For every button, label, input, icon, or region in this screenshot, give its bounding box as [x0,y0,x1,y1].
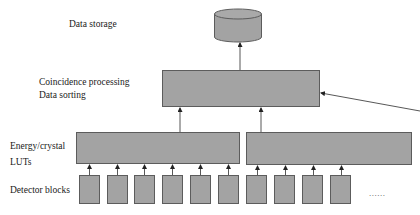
detector-arrows [90,165,342,175]
connectors-layer [0,0,420,215]
database-cylinder-icon [215,9,262,42]
arrow-external-input [321,93,420,111]
